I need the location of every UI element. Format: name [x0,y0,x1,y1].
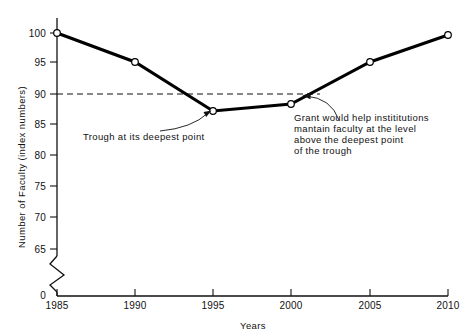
y-tick-label-90: 90 [34,89,46,100]
y-axis: 100 95 90 85 80 75 70 65 0 Number of Fac… [16,18,64,301]
x-axis-title: Years [240,320,266,331]
data-point-2000 [288,101,295,108]
data-point-1985 [54,30,61,37]
x-tick-label-1990: 1990 [123,300,146,311]
grant-annotation-line-4: of the trough [294,145,352,156]
chart-container: 100 95 90 85 80 75 70 65 0 Number of Fac… [0,0,466,335]
y-tick-label-75: 75 [34,181,46,192]
y-tick-label-80: 80 [34,150,46,161]
data-point-1990 [132,59,139,66]
x-tick-labels: 1985 1990 1995 2000 2005 2010 [45,300,459,311]
x-tick-label-2010: 2010 [436,300,459,311]
x-tick-label-2000: 2000 [279,300,302,311]
trough-annotation-text: Trough at its deepest point [83,131,205,142]
y-tick-marks [50,33,57,249]
x-tick-label-1985: 1985 [45,300,68,311]
series-line-path [57,33,448,111]
x-tick-marks [57,289,448,296]
faculty-index-line-chart: 100 95 90 85 80 75 70 65 0 Number of Fac… [0,0,466,335]
y-tick-label-95: 95 [34,57,46,68]
grant-annotation-line-3: above the deepest point [294,134,403,145]
y-axis-break-zigzag [50,256,64,292]
x-axis: 1985 1990 1995 2000 2005 2010 Years [45,289,459,331]
annotation-trough: Trough at its deepest point [83,111,212,143]
trough-leader-line [160,113,208,131]
y-tick-labels: 100 95 90 85 80 75 70 65 0 [29,28,47,301]
data-point-2010 [445,32,452,39]
grant-annotation-line-1: Grant would help instititutions [294,112,429,123]
annotation-grant: Grant would help instititutions mantain … [294,93,429,156]
y-tick-label-85: 85 [34,119,46,130]
data-point-2005 [367,59,374,66]
y-axis-title: Number of Faculty (index numbers) [16,86,27,248]
x-tick-label-1995: 1995 [201,300,224,311]
grant-annotation-line-2: mantain faculty at the level [294,123,416,134]
x-tick-label-2005: 2005 [358,300,381,311]
series-markers [54,30,452,115]
y-tick-label-65: 65 [34,244,46,255]
series-faculty-index [54,30,452,115]
y-tick-label-70: 70 [34,212,46,223]
y-tick-label-100: 100 [29,28,47,39]
